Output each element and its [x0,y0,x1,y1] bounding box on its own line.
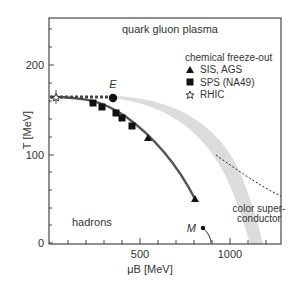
sps-points [90,100,136,130]
legend-sis-ags: SIS, AGS [200,64,243,75]
M-label: M [187,222,197,234]
y-tick-100: 100 [26,149,44,161]
y-axis-ticks [49,29,54,243]
phase-diagram-chart: 200 100 0 500 1000 μB [MeV] T [MeV] quar… [0,0,295,286]
critical-point-E [109,94,117,102]
x-tick-1000: 1000 [218,248,242,260]
qgp-label: quark gluon plasma [122,23,219,35]
rhic-point [52,90,60,104]
legend-sps: SPS (NA49) [200,77,254,88]
csc-label-2: conductor [237,213,282,224]
legend-triangle-icon [186,66,194,73]
star-icon [52,94,60,102]
legend-square-icon [187,79,194,86]
x-tick-500: 500 [131,248,149,260]
y-axis-label: T [MeV] [21,111,33,149]
M-pointer [204,229,211,243]
E-label: E [109,78,117,90]
legend: chemical freeze-out SIS, AGS SPS (NA49) … [185,52,272,100]
legend-title: chemical freeze-out [185,52,272,63]
legend-rhic: RHIC [200,89,224,100]
x-axis-label: μB [MeV] [127,263,172,275]
x-axis-ticks [68,238,266,244]
y-tick-0: 0 [38,237,44,249]
y-tick-200: 200 [26,59,44,71]
hadrons-label: hadrons [72,216,112,228]
legend-star-icon [186,91,194,99]
